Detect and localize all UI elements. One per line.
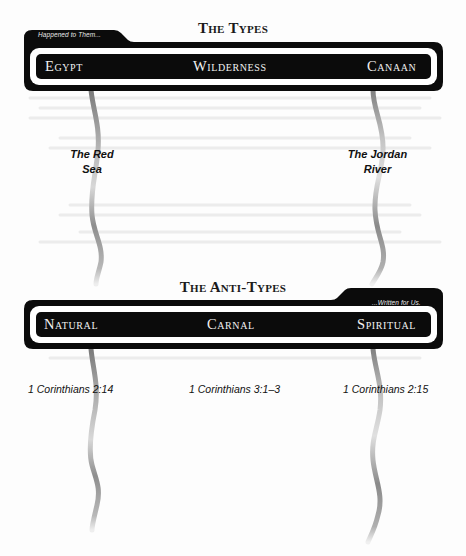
crossing-jordan-line2: River	[340, 162, 415, 177]
red-sea-river	[91, 90, 101, 284]
crossing-jordan-line1: The Jordan	[340, 147, 415, 162]
types-bar	[0, 0, 466, 100]
reference-carnal: 1 Corinthians 3:1–3	[189, 383, 280, 395]
stage-egypt: Egypt	[45, 59, 83, 74]
crossing-red-sea-line2: Sea	[62, 162, 122, 177]
antitypes-tab-caption: ...Written for Us.	[372, 299, 421, 306]
crossing-red-sea: The Red Sea	[62, 147, 122, 177]
stage-carnal: Carnal	[207, 317, 255, 332]
types-tab-caption: Happened to Them...	[38, 31, 101, 38]
crossing-jordan-river: The Jordan River	[340, 147, 415, 177]
reference-spiritual: 1 Corinthians 2:15	[343, 383, 428, 395]
crossing-red-sea-line1: The Red	[62, 147, 122, 162]
jordan-river	[372, 90, 384, 284]
stage-canaan: Canaan	[367, 59, 416, 74]
stage-spiritual: Spiritual	[357, 317, 416, 332]
stage-wilderness: Wilderness	[193, 59, 267, 74]
carnal-spiritual-divider	[368, 349, 381, 542]
natural-carnal-divider	[90, 349, 98, 530]
reference-natural: 1 Corinthians 2:14	[28, 383, 113, 395]
stage-natural: Natural	[44, 317, 98, 332]
